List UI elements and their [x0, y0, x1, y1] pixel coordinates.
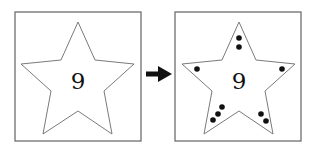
- left-panel: 9: [15, 12, 141, 141]
- dot-icon: [219, 104, 225, 110]
- dot-icon: [215, 111, 221, 117]
- dot-icon: [236, 35, 242, 41]
- dot-icon: [210, 117, 216, 123]
- dot-icon: [263, 118, 269, 124]
- right-panel: 9: [175, 12, 301, 141]
- dot-icon: [279, 66, 285, 72]
- left-star-number: 9: [71, 68, 86, 94]
- dot-icon: [236, 44, 242, 50]
- right-star-number: 9: [232, 68, 247, 94]
- star-diagram: 9 9: [0, 0, 316, 149]
- right-arrow-icon: [146, 66, 172, 82]
- dot-icon: [194, 66, 200, 72]
- dot-icon: [258, 111, 264, 117]
